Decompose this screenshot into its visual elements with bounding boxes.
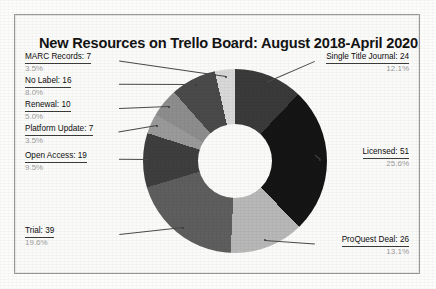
donut-center-hole (198, 124, 272, 198)
page-frame: New Resources on Trello Board: August 20… (14, 14, 420, 274)
chart-page: New Resources on Trello Board: August 20… (0, 0, 436, 289)
slice-label-percent: 25.6% (363, 159, 409, 169)
leader-anchor-dot (182, 227, 184, 229)
slice-label-open-access: Open Access: 19 9.5% (25, 152, 87, 173)
slice-label-percent: 13.1% (342, 247, 409, 257)
slice-label-single-title-journal: Single Title Journal: 24 12.1% (326, 53, 409, 74)
slice-label-text: Single Title Journal: 24 (326, 53, 409, 64)
slice-label-percent: 3.5% (25, 64, 91, 74)
slice-label-marc-records: MARC Records: 7 3.5% (25, 53, 91, 74)
slice-label-percent: 5.0% (25, 112, 71, 122)
slice-label-proquest-deal: ProQuest Deal: 26 13.1% (342, 236, 409, 257)
slice-label-trial: Trial: 39 19.6% (25, 227, 54, 248)
slice-label-percent: 19.6% (25, 238, 54, 248)
slice-label-licensed: Licensed: 51 25.6% (363, 148, 409, 169)
slice-label-text: Licensed: 51 (363, 148, 409, 159)
slice-label-percent: 12.1% (326, 64, 409, 74)
slice-label-text: Trial: 39 (25, 227, 54, 238)
slice-label-text: No Label: 16 (25, 77, 71, 88)
slice-label-text: ProQuest Deal: 26 (342, 236, 409, 247)
slice-label-renewal: Renewal: 10 5.0% (25, 101, 71, 122)
slice-label-text: Renewal: 10 (25, 101, 71, 112)
slice-label-percent: 9.5% (25, 163, 87, 173)
leader-anchor-dot (225, 76, 227, 78)
slice-label-text: Platform Update: 7 (25, 125, 93, 136)
slice-label-no-label: No Label: 16 8.0% (25, 77, 71, 98)
slice-label-platform-update: Platform Update: 7 3.5% (25, 125, 93, 146)
donut-chart (143, 69, 327, 253)
slice-label-percent: 3.5% (25, 136, 93, 146)
slice-label-text: MARC Records: 7 (25, 53, 91, 64)
chart-title: New Resources on Trello Board: August 20… (39, 35, 429, 51)
slice-label-text: Open Access: 19 (25, 152, 87, 163)
slice-label-percent: 8.0% (25, 88, 71, 98)
